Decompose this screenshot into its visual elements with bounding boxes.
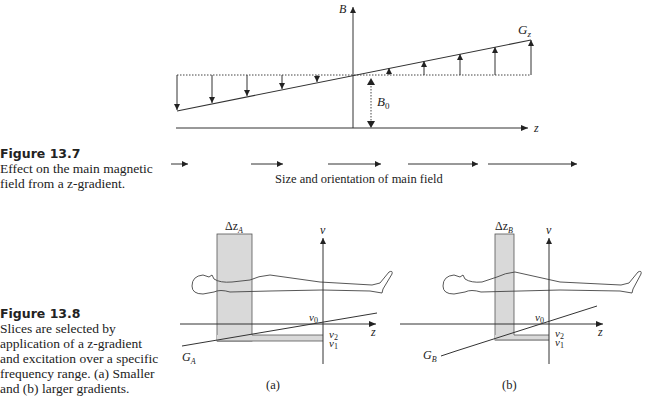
nu0-label-b: ν0 <box>535 311 544 325</box>
gradient-line-b <box>456 306 597 351</box>
z-axis-label-a: z <box>370 325 376 339</box>
figure-13-7-diagram: B z Gz B0 Size and orientation of main f… <box>171 2 577 186</box>
figure-13-8-panel-b: ΔzB ν z GB ν0 ν2 ν1 (b) <box>400 219 641 392</box>
figure-13-8-panel-a: ΔzA ν z GA ν0 ν2 ν1 (a) <box>180 219 392 392</box>
main-field-legend: Size and orientation of main field <box>275 172 443 186</box>
frequency-band-a <box>217 335 323 341</box>
z-axis-label-b: z <box>597 325 603 339</box>
b-axis-label: B <box>339 2 347 16</box>
slice-width-label-b: ΔzB <box>495 219 513 235</box>
z-axis-label: z <box>533 121 539 135</box>
slice-region-a <box>217 234 252 341</box>
nu0-label-a: ν0 <box>309 311 318 325</box>
panel-b-label: (b) <box>502 378 517 392</box>
patient-body-outline-b <box>443 271 641 294</box>
gradient-label-b: GB <box>423 348 437 364</box>
gradient-label-a: GA <box>182 350 196 366</box>
slice-width-label-a: ΔzA <box>225 219 243 235</box>
b0-label: B0 <box>377 94 390 111</box>
frequency-axis-label-b: ν <box>546 223 552 237</box>
panel-a-label: (a) <box>266 378 280 392</box>
frequency-axis-label-a: ν <box>320 223 326 237</box>
gradient-label: Gz <box>518 22 531 39</box>
